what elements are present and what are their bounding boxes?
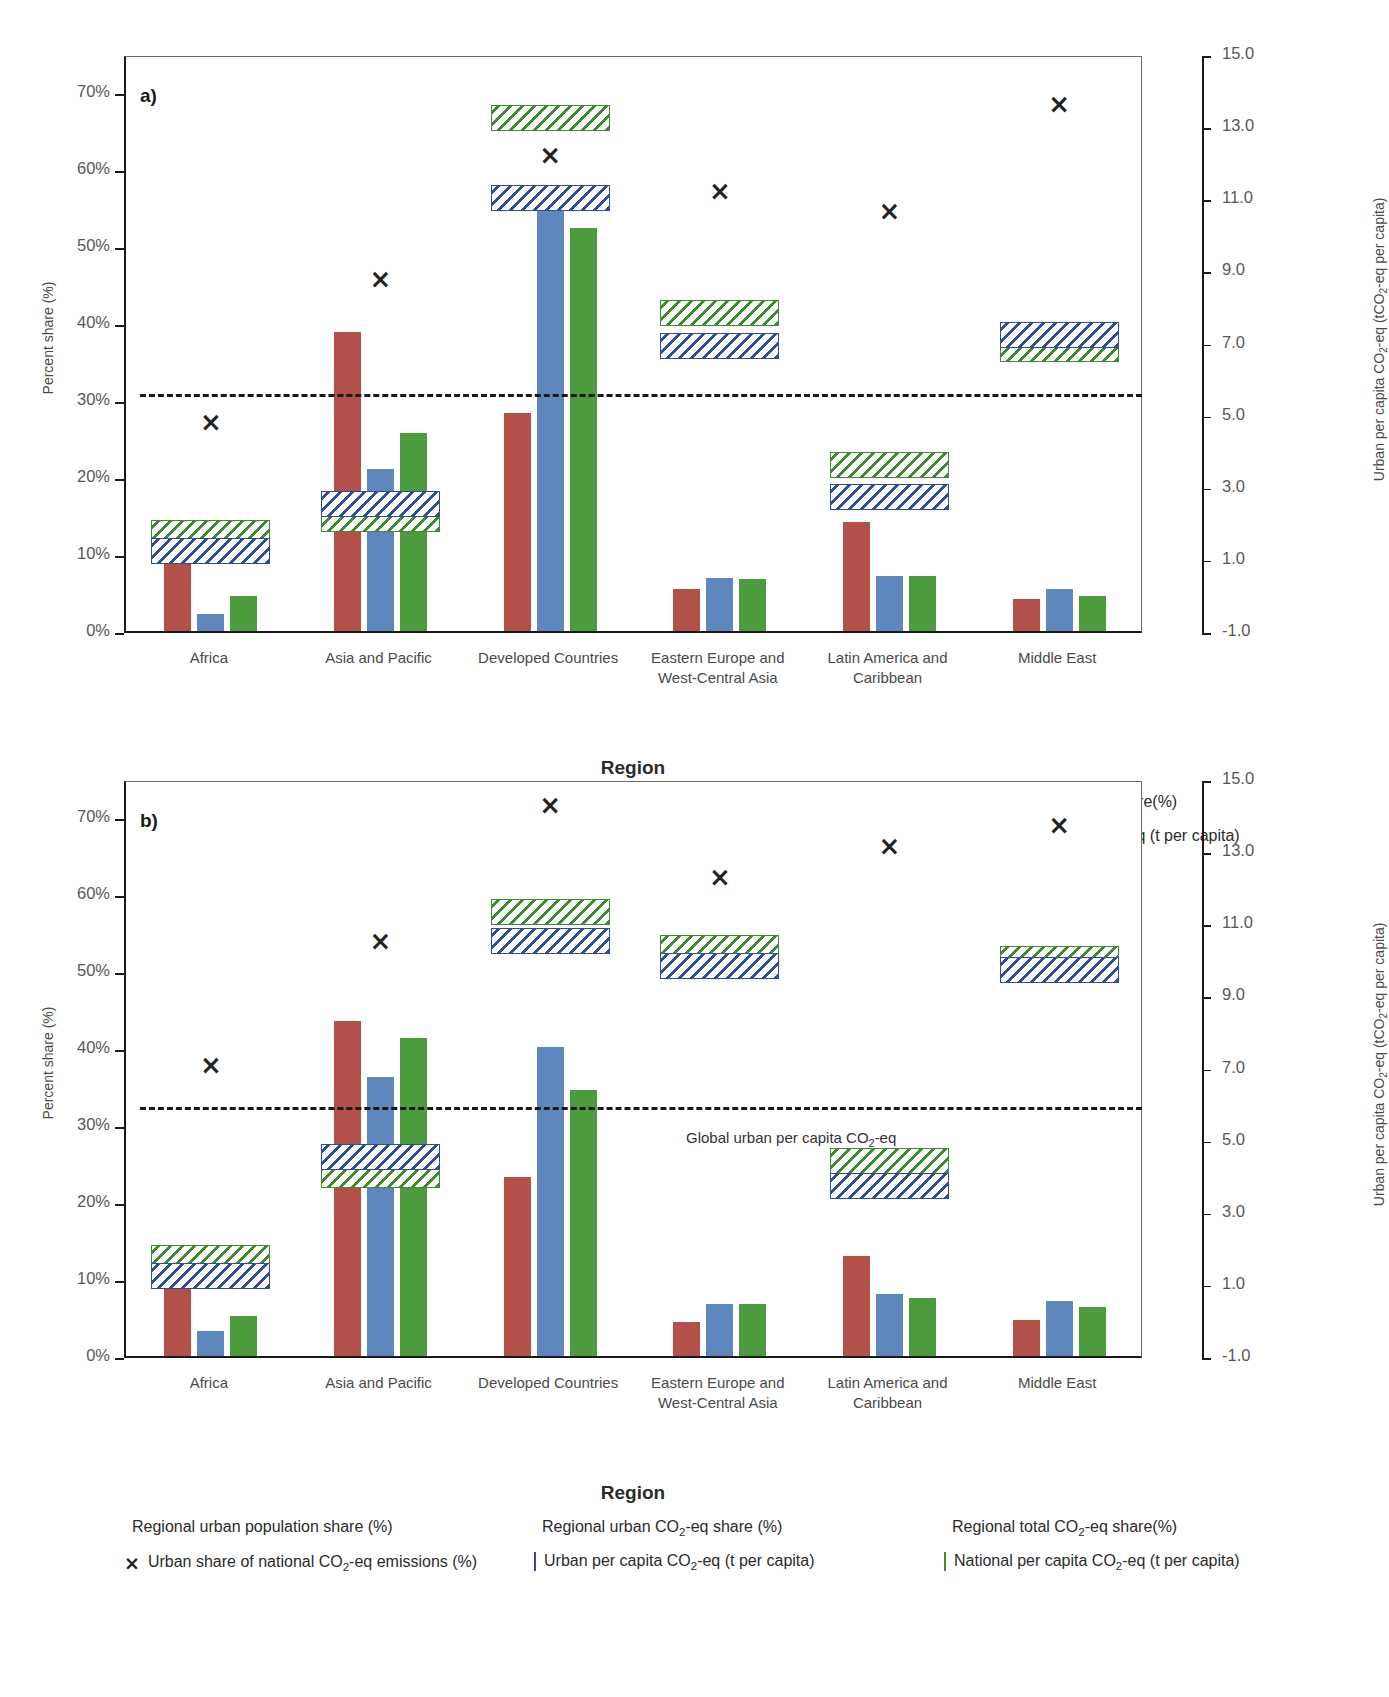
bar-green <box>739 579 766 631</box>
y-tick-mark-right <box>1202 853 1211 855</box>
y-tick-mark-left <box>115 1358 124 1360</box>
legend-label: Regional total CO2-eq share(%) <box>952 1518 1177 1538</box>
legend-b: Regional urban population share (%)Regio… <box>124 1518 1364 1586</box>
bar-blue <box>197 1331 224 1356</box>
urban-per-capita-band <box>491 185 610 211</box>
urban-per-capita-band <box>830 1173 949 1199</box>
y-tick-label-right: 1.0 <box>1222 549 1292 568</box>
bar-red <box>334 1021 361 1356</box>
bar-green <box>400 1038 427 1356</box>
urban-per-capita-band <box>491 928 610 954</box>
y-tick-mark-right <box>1202 1142 1211 1144</box>
urban-share-marker: × <box>709 178 731 204</box>
plot-area-a: a) ×××××× <box>124 56 1142 633</box>
urban-share-marker: × <box>1048 812 1070 838</box>
urban-share-marker: × <box>200 1052 222 1078</box>
bar-blue <box>537 188 564 631</box>
urban-share-marker: × <box>370 928 392 954</box>
axis-x-title-b: Region <box>124 1482 1142 1504</box>
urban-share-marker: × <box>200 409 222 435</box>
legend-swatch-green-hatch-icon <box>944 1553 946 1571</box>
y-tick-label-right: 15.0 <box>1222 769 1292 788</box>
urban-share-marker: × <box>539 792 561 818</box>
x-axis-category-label: Middle East <box>947 648 1167 668</box>
urban-share-marker: × <box>370 266 392 292</box>
y-tick-label-right: 3.0 <box>1222 477 1292 496</box>
bar-green <box>570 1090 597 1356</box>
bar-red <box>1013 599 1040 631</box>
y-tick-label-left: 50% <box>40 961 110 980</box>
bar-blue <box>1046 589 1073 631</box>
y-tick-mark-left <box>115 819 124 821</box>
bar-red <box>843 522 870 631</box>
bar-green <box>1079 596 1106 631</box>
y-tick-label-right: 15.0 <box>1222 44 1292 63</box>
bar-blue <box>876 576 903 631</box>
urban-share-marker: × <box>879 198 901 224</box>
y-tick-mark-left <box>115 1127 124 1129</box>
y-tick-label-left: 30% <box>40 390 110 409</box>
urban-per-capita-band <box>1000 957 1119 983</box>
y-tick-mark-right <box>1202 200 1211 202</box>
legend-swatch-blue-hatch-icon <box>534 1553 536 1571</box>
urban-share-marker: × <box>709 864 731 890</box>
y-tick-mark-right <box>1202 561 1211 563</box>
urban-per-capita-band <box>660 333 779 359</box>
bar-green <box>739 1304 766 1356</box>
y-tick-mark-left <box>115 1050 124 1052</box>
y-tick-mark-right <box>1202 1214 1211 1216</box>
urban-per-capita-band <box>151 1263 270 1289</box>
y-tick-mark-left <box>115 556 124 558</box>
bar-red <box>673 589 700 631</box>
y-tick-mark-right <box>1202 56 1211 58</box>
y-tick-mark-left <box>115 325 124 327</box>
y-tick-mark-left <box>115 896 124 898</box>
bar-red <box>334 332 361 631</box>
y-tick-label-right: 1.0 <box>1222 1274 1292 1293</box>
urban-per-capita-band <box>830 484 949 510</box>
bar-red <box>843 1256 870 1356</box>
y-tick-label-left: 60% <box>40 884 110 903</box>
y-tick-mark-right <box>1202 1286 1211 1288</box>
bars-layer-a: ×××××× <box>126 57 1141 631</box>
y-tick-mark-right <box>1202 1070 1211 1072</box>
urban-per-capita-band <box>151 538 270 564</box>
legend-label: Urban share of national CO2-eq emissions… <box>148 1553 477 1573</box>
y-tick-label-right: -1.0 <box>1222 1346 1292 1365</box>
y-tick-label-left: 30% <box>40 1115 110 1134</box>
y-tick-label-right: 5.0 <box>1222 405 1292 424</box>
x-axis-category-label: Middle East <box>947 1373 1167 1393</box>
bar-green <box>909 1298 936 1356</box>
y-tick-mark-left <box>115 1281 124 1283</box>
legend-item-urban-per-capita-co2eq[interactable]: Urban per capita CO2-eq (t per capita) <box>534 1552 815 1572</box>
y-tick-mark-right <box>1202 489 1211 491</box>
bar-green <box>400 433 427 631</box>
national-per-capita-band <box>491 899 610 925</box>
y-tick-mark-left <box>115 633 124 635</box>
legend-label: Regional urban CO2-eq share (%) <box>542 1518 782 1538</box>
bar-red <box>504 413 531 631</box>
bar-blue <box>537 1047 564 1356</box>
legend-label: National per capita CO2-eq (t per capita… <box>954 1552 1240 1572</box>
legend-item-regional-urban-population-share[interactable]: Regional urban population share (%) <box>124 1518 393 1536</box>
bar-red <box>1013 1320 1040 1356</box>
y-tick-mark-right <box>1202 128 1211 130</box>
legend-label: Urban per capita CO2-eq (t per capita) <box>544 1552 815 1572</box>
legend-item-national-per-capita-co2eq[interactable]: National per capita CO2-eq (t per capita… <box>944 1552 1240 1572</box>
y-tick-mark-right <box>1202 633 1211 635</box>
urban-share-marker: × <box>879 833 901 859</box>
y-tick-label-left: 20% <box>40 467 110 486</box>
legend-item-regional-total-co2eq-share[interactable]: Regional total CO2-eq share(%) <box>944 1518 1177 1538</box>
legend-item-urban-share-of-national-co2eq[interactable]: ×Urban share of national CO2-eq emission… <box>124 1552 477 1574</box>
legend-item-regional-urban-co2eq-share[interactable]: Regional urban CO2-eq share (%) <box>534 1518 782 1538</box>
bar-green <box>909 576 936 631</box>
legend-label: Regional urban population share (%) <box>132 1518 393 1536</box>
legend-swatch-x-marker-icon: × <box>124 1552 140 1574</box>
bar-red <box>673 1322 700 1356</box>
global-urban-per-capita-reference-line <box>140 1107 1142 1110</box>
bar-blue <box>1046 1301 1073 1356</box>
global-urban-per-capita-reference-line <box>140 394 1142 397</box>
bar-blue <box>706 578 733 631</box>
y-tick-label-left: 0% <box>40 621 110 640</box>
